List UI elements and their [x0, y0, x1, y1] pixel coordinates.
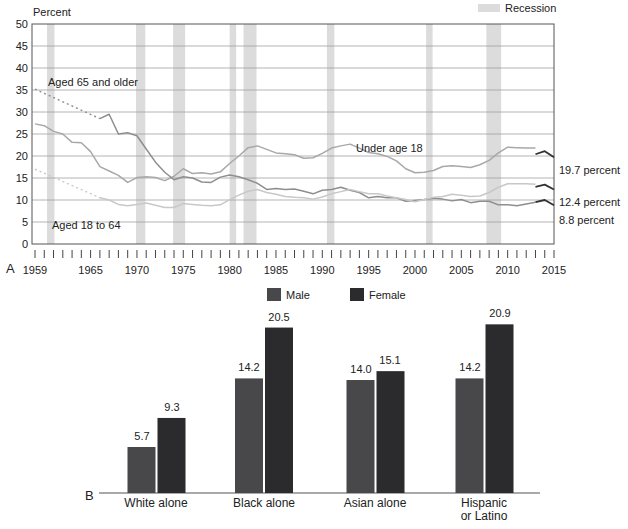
category-label-asian-alone: Asian alone	[327, 497, 423, 510]
panel-a-label: A	[6, 261, 15, 276]
bar-value-female-white: 9.3	[152, 401, 192, 413]
end-label-65-older: 8.8 percent	[559, 214, 614, 226]
category-label-hispanic-line2: or Latino	[461, 509, 508, 523]
bar-female-black-alone	[265, 328, 293, 493]
male-legend-swatch	[267, 288, 281, 301]
recession-legend-swatch	[478, 4, 500, 12]
bar-female-asian-alone	[377, 371, 405, 493]
bar-male-white-alone	[128, 447, 156, 493]
x-tick-label: 2000	[403, 264, 427, 276]
annotation-aged-65-and-older: Aged 65 and older	[48, 76, 138, 88]
figure-poverty-charts: 1959196519701975198019851990199520002005…	[0, 0, 628, 529]
bar-value-female-asian: 15.1	[370, 354, 410, 366]
y-tick-label: 0	[22, 238, 28, 250]
bar-value-male-white: 5.7	[122, 430, 162, 442]
x-tick-label: 1959	[23, 264, 47, 276]
category-label-black-alone: Black alone	[216, 497, 312, 510]
recession-legend-label: Recession	[505, 2, 556, 14]
x-tick-label: 1990	[310, 264, 334, 276]
bar-value-female-hispanic: 20.9	[480, 307, 520, 319]
category-label-hispanic: Hispanic or Latino	[436, 497, 532, 523]
annotation-under-age-18: Under age 18	[356, 142, 423, 154]
bar-male-black-alone	[235, 378, 263, 493]
x-tick-label: 2005	[449, 264, 473, 276]
y-tick-label: 5	[22, 216, 28, 228]
category-label-white-alone: White alone	[108, 497, 204, 510]
male-legend-label: Male	[286, 289, 310, 301]
y-tick-label: 35	[16, 84, 28, 96]
panel-b-bar-chart	[0, 285, 628, 529]
y-tick-label: 25	[16, 128, 28, 140]
x-tick-label: 1980	[217, 264, 241, 276]
y-tick-label: 50	[16, 18, 28, 30]
end-label-under-18: 19.7 percent	[559, 164, 620, 176]
y-tick-label: 15	[16, 172, 28, 184]
line-aged-65-and-older-interpolated	[35, 89, 100, 118]
line-aged-18-to-64	[100, 184, 536, 208]
x-tick-label: 1975	[171, 264, 195, 276]
x-tick-label: 2015	[542, 264, 566, 276]
bar-female-hispanic-or-latino	[486, 324, 514, 493]
x-tick-label: 1985	[264, 264, 288, 276]
line-aged-18-to-64-revised	[535, 185, 554, 190]
y-tick-label: 20	[16, 150, 28, 162]
female-legend-label: Female	[369, 289, 406, 301]
bar-value-male-black: 14.2	[229, 361, 269, 373]
y-axis-title: Percent	[33, 6, 71, 18]
female-legend-swatch	[350, 288, 364, 301]
line-aged-65-and-older-revised	[535, 200, 554, 205]
x-tick-label: 1970	[125, 264, 149, 276]
annotation-aged-18-to-64: Aged 18 to 64	[52, 219, 121, 231]
bar-value-female-black: 20.5	[259, 311, 299, 323]
end-label-18-to-64: 12.4 percent	[559, 196, 620, 208]
y-tick-label: 40	[16, 62, 28, 74]
y-tick-label: 10	[16, 194, 28, 206]
bar-male-asian-alone	[347, 380, 375, 493]
category-label-hispanic-line1: Hispanic	[461, 496, 507, 510]
panel-a-line-chart: 1959196519701975198019851990199520002005…	[0, 0, 628, 285]
panel-b-label: B	[85, 488, 94, 503]
y-tick-label: 45	[16, 40, 28, 52]
y-tick-label: 30	[16, 106, 28, 118]
line-aged-18-to-64-interpolated	[35, 169, 100, 198]
line-under-age-18	[35, 124, 535, 183]
bar-value-male-hispanic: 14.2	[450, 361, 490, 373]
line-under-age-18-revised	[535, 151, 554, 157]
x-tick-label: 1995	[356, 264, 380, 276]
line-aged-65-and-older	[100, 114, 536, 206]
bar-male-hispanic-or-latino	[456, 378, 484, 493]
x-tick-label: 1965	[78, 264, 102, 276]
x-tick-label: 2010	[495, 264, 519, 276]
